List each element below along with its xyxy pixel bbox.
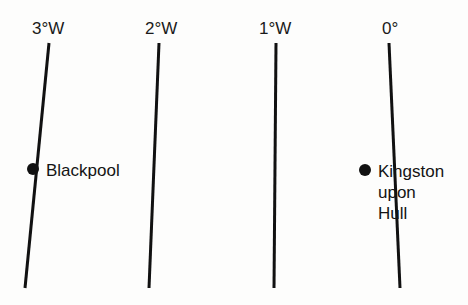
- city-label-0: Blackpool: [46, 160, 120, 181]
- meridian-label-2: 1°W: [259, 20, 291, 37]
- city-dot-icon-0: [27, 163, 39, 175]
- city-label-line: Kingston: [378, 161, 444, 182]
- city-label-1: KingstonuponHull: [378, 161, 444, 224]
- meridian-label-0: 3°W: [32, 20, 64, 37]
- meridian-map-figure: 3°W2°W1°W0° BlackpoolKingstonuponHull: [0, 0, 468, 305]
- city-label-line: Blackpool: [46, 160, 120, 181]
- meridian-lines-layer: [0, 0, 468, 305]
- meridian-line-1W: [274, 43, 276, 288]
- meridian-label-3: 0°: [382, 20, 398, 37]
- meridian-label-1: 2°W: [145, 20, 177, 37]
- city-label-line: Hull: [378, 203, 444, 224]
- city-label-line: upon: [378, 182, 444, 203]
- meridian-line-2W: [149, 43, 159, 288]
- city-dot-icon-1: [359, 164, 371, 176]
